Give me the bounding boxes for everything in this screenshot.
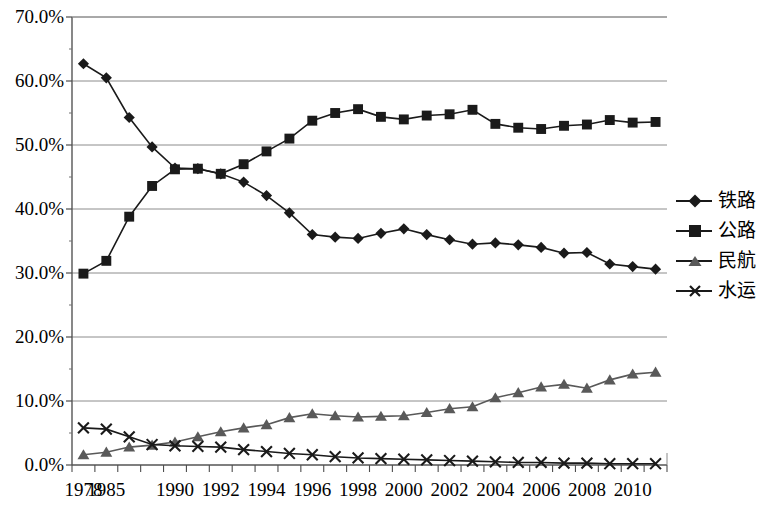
axis-group [72, 17, 667, 465]
x-cross-icon [687, 283, 703, 299]
y-axis-tick-label: 20.0% [0, 326, 64, 348]
series-水运 [78, 422, 661, 469]
data-point-square [330, 108, 340, 118]
x-axis-tick-label: 2006 [522, 479, 560, 501]
data-point-square [651, 117, 661, 127]
data-point-x [124, 431, 135, 442]
data-point-diamond [604, 258, 615, 269]
series-line [83, 64, 655, 269]
data-point-square [147, 181, 157, 191]
data-point-square [284, 134, 294, 144]
data-point-diamond [513, 239, 524, 250]
x-axis-tick-label: 1994 [248, 479, 286, 501]
data-point-diamond [352, 233, 363, 244]
y-axis-tick-label: 70.0% [0, 6, 64, 28]
data-point-square [582, 120, 592, 130]
x-axis-tick-label: 2010 [614, 479, 652, 501]
x-axis-tick-label: 2000 [385, 479, 423, 501]
data-point-triangle [558, 379, 570, 389]
data-point-diamond [558, 248, 569, 259]
data-point-square [490, 119, 500, 129]
legend-item-water: 水运 [676, 276, 783, 306]
data-point-square [193, 164, 203, 174]
data-point-square [513, 123, 523, 133]
x-axis-tick-label: 2002 [431, 479, 469, 501]
data-point-diamond [627, 261, 638, 272]
y-axis-tick-label: 40.0% [0, 198, 64, 220]
data-point-square [628, 118, 638, 128]
data-point-diamond [101, 72, 112, 83]
data-point-diamond [238, 177, 249, 188]
legend-label-railway: 铁路 [718, 186, 756, 216]
chart-plot-area [0, 0, 783, 506]
data-point-square [262, 146, 272, 156]
chart-legend: 铁路 公路 民航 水运 [676, 186, 783, 308]
data-point-square [445, 109, 455, 119]
series-铁路 [78, 58, 661, 275]
x-axis-tick-label: 1998 [339, 479, 377, 501]
x-axis-tick-label: 2008 [568, 479, 606, 501]
data-point-square [376, 112, 386, 122]
data-point-diamond [490, 237, 501, 248]
data-point-square [307, 116, 317, 126]
x-axis-tick-label: 1985 [87, 479, 125, 501]
legend-label-water: 水运 [718, 276, 756, 306]
square-icon [687, 223, 703, 239]
data-point-square [353, 104, 363, 114]
data-point-square [468, 105, 478, 115]
data-point-triangle [467, 401, 479, 411]
data-point-triangle [650, 367, 662, 377]
data-point-square [216, 169, 226, 179]
data-point-diamond [444, 234, 455, 245]
gridlines-group [72, 17, 667, 401]
data-point-square [536, 124, 546, 134]
y-axis-tick-label: 50.0% [0, 134, 64, 156]
data-point-diamond [78, 58, 89, 69]
data-point-triangle [306, 408, 318, 418]
triangle-icon [687, 253, 703, 269]
series-line [83, 372, 655, 455]
x-axis-tick-label: 1992 [202, 479, 240, 501]
diamond-icon [687, 193, 703, 209]
chart-container: 70.0%60.0%50.0%40.0%30.0%20.0%10.0%0.0% … [0, 0, 783, 506]
data-point-square [422, 111, 432, 121]
data-point-square [559, 121, 569, 131]
data-series-group [78, 58, 662, 469]
data-point-square [124, 212, 134, 222]
tick-group [66, 17, 667, 472]
series-line [83, 109, 655, 273]
data-point-square [399, 114, 409, 124]
data-point-diamond [375, 228, 386, 239]
x-axis-tick-label: 1996 [293, 479, 331, 501]
legend-item-highway: 公路 [676, 216, 783, 246]
y-axis-tick-label: 60.0% [0, 70, 64, 92]
legend-label-highway: 公路 [718, 216, 756, 246]
y-axis-tick-label: 10.0% [0, 390, 64, 412]
x-axis-tick-label: 1990 [156, 479, 194, 501]
data-point-square [78, 269, 88, 279]
y-axis-tick-label: 30.0% [0, 262, 64, 284]
y-axis-tick-label: 0.0% [0, 454, 64, 476]
data-point-diamond [330, 232, 341, 243]
x-axis-tick-label: 2004 [476, 479, 514, 501]
data-point-diamond [421, 229, 432, 240]
data-point-diamond [398, 223, 409, 234]
data-point-square [170, 164, 180, 174]
data-point-diamond [467, 239, 478, 250]
data-point-diamond [536, 242, 547, 253]
data-point-square [101, 256, 111, 266]
legend-item-aviation: 民航 [676, 246, 783, 276]
legend-item-railway: 铁路 [676, 186, 783, 216]
data-point-diamond [581, 247, 592, 258]
data-point-square [239, 159, 249, 169]
data-point-square [605, 115, 615, 125]
legend-label-aviation: 民航 [718, 246, 756, 276]
